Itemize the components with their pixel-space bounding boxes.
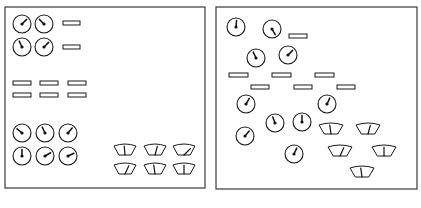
sector-meter-icon [356,123,380,134]
indicator-light-icon [251,85,269,89]
dial-gauge-icon [263,20,281,38]
sector-meter-icon [114,163,136,174]
dial-gauge-icon [247,49,265,67]
dial-gauge-icon [279,46,297,64]
sector-meter-icon [350,166,374,177]
dial-gauge-icon [237,95,255,113]
dial-gauge-icon [59,147,77,165]
sector-meter-icon [372,145,396,156]
indicator-light-icon [40,81,58,85]
dial-gauge-icon [13,38,31,56]
dial-gauge-icon [13,124,31,142]
dial-gauge-icon [266,114,284,132]
sector-meter-icon [114,144,136,155]
indicator-light-icon [289,34,307,38]
dial-gauge-icon [285,145,303,163]
indicator-light-icon [40,93,58,97]
indicator-light-icon [68,93,86,97]
sector-needle [124,146,125,155]
sector-meter-icon [173,163,195,174]
dial-gauge-icon [318,95,336,113]
dial-gauge-icon [59,124,77,142]
dial-gauge-icon [13,15,31,33]
dial-gauge-icon [293,113,311,131]
dial-gauge-icon [35,38,53,56]
dial-gauge-icon [13,147,31,165]
dial-gauge-icon [227,18,245,36]
instrument-panel-comparison-diagram [0,0,421,208]
panel-frame [5,7,205,188]
indicator-light-icon [68,81,86,85]
dial-gauge-icon [35,15,53,33]
indicator-light-icon [229,73,248,77]
indicator-light-icon [272,73,291,77]
dial-gauge-icon [36,147,54,165]
dial-gauge-icon [236,127,254,145]
indicator-light-icon [294,85,312,89]
indicator-light-icon [63,45,80,49]
indicator-light-icon [13,93,31,97]
sector-meter-icon [173,144,195,155]
sector-meter-icon [328,145,352,156]
indicator-light-icon [63,21,80,25]
dial-gauge-icon [36,124,54,142]
sector-meter-icon [144,163,166,174]
right-panel-scattered-layout [216,7,417,189]
indicator-light-icon [315,73,334,77]
indicator-light-icon [337,85,355,89]
sector-meter-icon [319,123,343,134]
indicator-light-icon [13,81,31,85]
left-panel-grouped-layout [5,7,205,188]
sector-meter-icon [144,144,166,155]
